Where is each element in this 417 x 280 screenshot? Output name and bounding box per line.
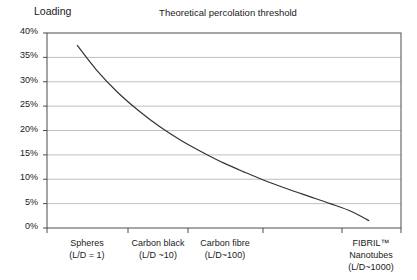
x-category-line: Carbon fibre: [180, 237, 270, 249]
x-category-label: FIBRIL™Nanotubes(L/D~1000): [326, 237, 416, 273]
y-tick-label: 25%: [8, 100, 38, 110]
y-tick-label: 30%: [8, 76, 38, 86]
y-axis-ticks: [43, 33, 47, 228]
percolation-curve: [77, 45, 369, 221]
x-axis-ticks: [47, 228, 401, 233]
y-tick-label: 15%: [8, 149, 38, 159]
x-category-line: Nanotubes: [326, 249, 416, 261]
y-tick-label: 5%: [8, 198, 38, 208]
y-tick-label: 40%: [8, 27, 38, 37]
y-tick-label: 10%: [8, 173, 38, 183]
y-tick-label: 20%: [8, 125, 38, 135]
percolation-threshold-chart: Loading Theoretical percolation threshol…: [0, 0, 417, 280]
x-category-label: Carbon fibre(L/D~100): [180, 237, 270, 261]
y-tick-label: 35%: [8, 51, 38, 61]
y-tick-label: 0%: [8, 222, 38, 232]
x-category-line: (L/D~100): [180, 249, 270, 261]
x-category-line: FIBRIL™: [326, 237, 416, 249]
gridlines: [47, 57, 401, 203]
x-category-line: (L/D~1000): [326, 261, 416, 273]
